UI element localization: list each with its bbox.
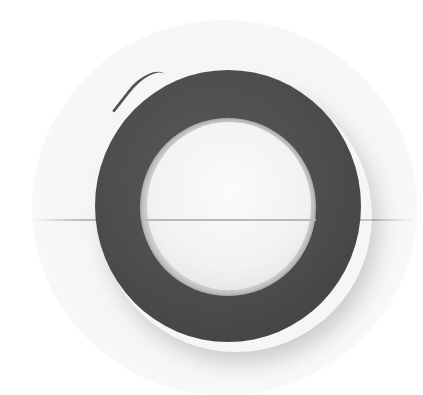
horizon-line-through-core <box>142 219 316 221</box>
tape-core-hole <box>147 122 311 290</box>
